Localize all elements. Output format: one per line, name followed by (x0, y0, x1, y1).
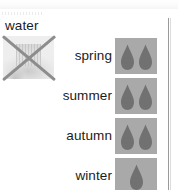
water-drop-icon (138, 84, 153, 111)
table-row: winter (0, 156, 178, 190)
drop-swatch-winter (115, 158, 157, 190)
season-rows: spring summer autumn (0, 36, 178, 190)
group-caption: water (5, 18, 39, 34)
row-label-winter: winter (75, 168, 112, 184)
drop-swatch-autumn (115, 118, 157, 154)
drop-swatch-summer (115, 78, 157, 114)
water-drop-icon (129, 164, 144, 190)
water-drop-icon (120, 44, 135, 71)
water-drop-icon (120, 124, 135, 151)
water-drop-icon (138, 44, 153, 71)
row-label-autumn: autumn (66, 128, 112, 144)
table-row: autumn (0, 116, 178, 156)
table-row: summer (0, 76, 178, 116)
scan-artifact-band (0, 0, 178, 9)
row-label-summer: summer (63, 88, 112, 104)
water-drop-icon (120, 84, 135, 111)
vertical-divider-shadow (170, 18, 171, 190)
table-row: spring (0, 36, 178, 76)
water-drop-icon (138, 124, 153, 151)
water-legend-panel: water spring summer (0, 0, 178, 190)
row-label-spring: spring (75, 48, 112, 64)
drop-swatch-spring (115, 38, 157, 74)
scan-speck (2, 12, 44, 15)
